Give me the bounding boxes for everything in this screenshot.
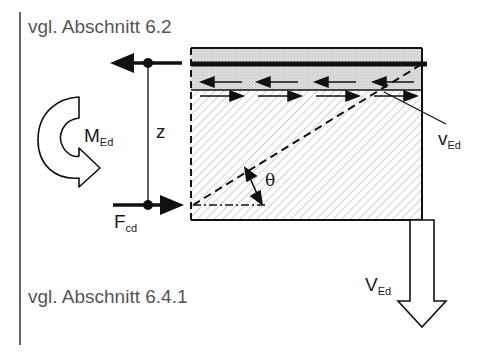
shear-force-arrow [398,220,446,327]
compression-force-label: Fcd [114,211,137,234]
reference-top: vgl. Abschnitt 6.2 [28,16,172,38]
moment-label: MEd [84,125,113,148]
shear-flow-label: vEd [438,128,461,151]
shear-force-label: VEd [365,274,391,297]
tension-force-arrow [110,53,182,73]
web-region [191,90,422,220]
angle-label: θ [265,170,275,190]
lever-arm-label: z [156,121,166,143]
reference-bottom: vgl. Abschnitt 6.4.1 [28,286,188,308]
flange-region [191,48,422,90]
